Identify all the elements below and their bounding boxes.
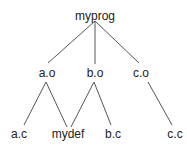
- node-b-o: b.o: [87, 67, 104, 79]
- edge-co-cc: [148, 82, 172, 125]
- node-a-c: a.c: [11, 128, 27, 140]
- node-myprog: myprog: [75, 10, 115, 22]
- edge-myprog-ao: [48, 21, 95, 63]
- node-a-o: a.o: [39, 67, 56, 79]
- edge-bo-mydef: [71, 82, 94, 127]
- edge-bo-bc: [94, 82, 111, 125]
- node-mydef: mydef: [52, 128, 85, 140]
- node-c-c: c.c: [167, 128, 182, 140]
- edge-ao-mydef: [46, 82, 67, 127]
- node-b-c: b.c: [105, 128, 121, 140]
- edge-ao-ac: [24, 82, 46, 125]
- edge-myprog-co: [95, 21, 139, 63]
- node-c-o: c.o: [133, 67, 149, 79]
